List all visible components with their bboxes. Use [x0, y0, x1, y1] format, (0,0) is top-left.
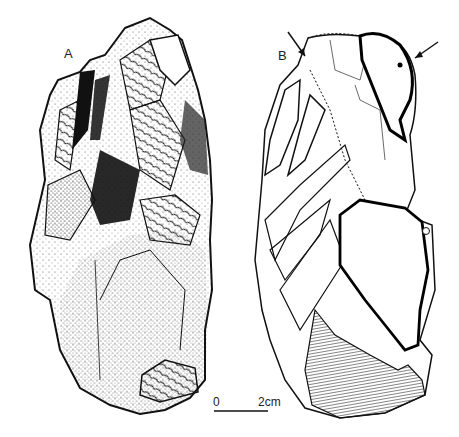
- view-b-label: B: [278, 48, 287, 63]
- lithic-core-drawing: [0, 0, 459, 437]
- arrow-right-icon: [415, 42, 438, 58]
- view-b: [255, 32, 438, 418]
- scale-start-label: 0: [213, 395, 220, 409]
- arrow-left-icon: [288, 32, 305, 56]
- view-a-label: A: [64, 46, 73, 61]
- scale-end-label: 2cm: [258, 395, 281, 409]
- open-circle-marker: [423, 228, 430, 235]
- solid-dot-marker: [398, 63, 403, 68]
- view-a: [30, 18, 212, 414]
